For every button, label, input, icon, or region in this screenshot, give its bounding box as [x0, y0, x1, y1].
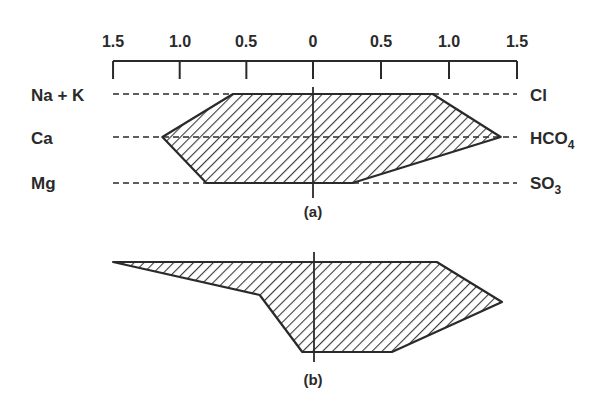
- panel-label-a: (a): [304, 203, 322, 220]
- stiff-polygon-b: [113, 262, 502, 352]
- tick-label-right-1-5: 1.5: [506, 33, 528, 50]
- stiff-polygon-a: [162, 94, 500, 183]
- scale-axis: 1.5 1.0 0.5 0 0.5 1.0 1.5: [102, 33, 528, 79]
- stiff-diagram-figure: 1.5 1.0 0.5 0 0.5 1.0 1.5 Na + K Ca Mg C…: [0, 0, 613, 411]
- tick-label-right-0-5: 0.5: [370, 33, 392, 50]
- label-ca: Ca: [31, 129, 53, 148]
- label-mg: Mg: [31, 174, 56, 193]
- cation-labels: Na + K Ca Mg: [31, 86, 85, 193]
- label-so3: SO3: [530, 174, 562, 197]
- tick-label-left-1-0: 1.0: [169, 33, 191, 50]
- tick-label-left-1-5: 1.5: [102, 33, 124, 50]
- tick-label-right-1-0: 1.0: [438, 33, 460, 50]
- panel-label-b: (b): [303, 371, 322, 388]
- tick-label-left-0-5: 0.5: [235, 33, 257, 50]
- label-hco4: HCO4: [530, 129, 575, 152]
- label-cl: Cl: [530, 86, 547, 105]
- label-na-k: Na + K: [31, 86, 85, 105]
- anion-labels: Cl HCO4 SO3: [530, 86, 575, 197]
- tick-label-zero: 0: [309, 33, 318, 50]
